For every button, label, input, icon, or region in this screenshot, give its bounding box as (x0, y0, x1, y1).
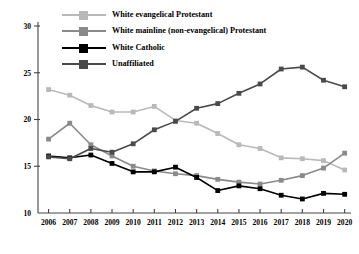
legend-item-white-catholic: White Catholic (62, 41, 312, 54)
x-tick-label: 2020 (337, 218, 352, 227)
chart-legend: White evangelical Protestant White mainl… (62, 8, 312, 74)
series-marker-0 (300, 156, 305, 161)
series-marker-0 (342, 168, 347, 173)
series-marker-2 (110, 161, 115, 166)
series-marker-2 (194, 175, 199, 180)
series-marker-0 (110, 110, 115, 115)
y-tick-label: 30 (23, 22, 31, 31)
series-marker-3 (215, 101, 220, 106)
series-marker-1 (131, 164, 136, 169)
legend-swatch-white-evangelical-protestant (62, 9, 106, 21)
y-tick-label: 25 (23, 69, 31, 78)
series-marker-0 (88, 103, 93, 108)
series-marker-0 (215, 131, 220, 136)
series-marker-1 (173, 171, 178, 176)
x-tick-label: 2019 (316, 218, 331, 227)
legend-label-white-catholic: White Catholic (106, 43, 165, 53)
series-marker-3 (342, 84, 347, 89)
x-tick-label: 2012 (168, 218, 183, 227)
series-marker-0 (67, 93, 72, 98)
y-tick-label: 15 (23, 162, 31, 171)
series-marker-3 (194, 106, 199, 111)
series-marker-1 (258, 182, 263, 187)
series-marker-2 (173, 165, 178, 170)
series-marker-0 (279, 155, 284, 160)
series-marker-3 (321, 78, 326, 83)
x-tick-label: 2013 (189, 218, 204, 227)
y-tick-label: 20 (23, 115, 31, 124)
series-marker-1 (215, 177, 220, 182)
legend-item-white-mainline-protestant: White mainline (non-evangelical) Protest… (62, 25, 312, 38)
series-marker-0 (194, 121, 199, 126)
series-marker-3 (173, 119, 178, 124)
series-marker-2 (237, 183, 242, 188)
legend-swatch-white-catholic (62, 42, 106, 54)
legend-item-unaffiliated: Unaffiliated (62, 58, 312, 71)
legend-label-unaffiliated: Unaffiliated (106, 59, 154, 69)
series-marker-0 (237, 142, 242, 147)
series-marker-2 (152, 169, 157, 174)
series-marker-3 (131, 141, 136, 146)
series-marker-2 (342, 192, 347, 197)
legend-swatch-white-mainline-protestant (62, 25, 106, 37)
series-marker-0 (152, 104, 157, 109)
series-marker-2 (215, 188, 220, 193)
series-marker-0 (258, 146, 263, 151)
series-marker-0 (46, 87, 51, 92)
x-tick-label: 2018 (295, 218, 310, 227)
legend-item-white-evangelical-protestant: White evangelical Protestant (62, 8, 312, 21)
series-marker-3 (258, 82, 263, 87)
y-tick-label: 10 (23, 209, 31, 218)
series-marker-1 (300, 173, 305, 178)
legend-label-white-evangelical-protestant: White evangelical Protestant (106, 10, 212, 20)
series-marker-2 (279, 193, 284, 198)
series-marker-1 (279, 178, 284, 183)
series-marker-1 (67, 121, 72, 126)
series-marker-3 (237, 91, 242, 96)
series-marker-2 (300, 197, 305, 202)
series-marker-1 (342, 151, 347, 156)
series-marker-0 (321, 158, 326, 163)
x-tick-label: 2006 (41, 218, 56, 227)
legend-label-white-mainline-protestant: White mainline (non-evangelical) Protest… (106, 26, 266, 36)
x-tick-label: 2016 (252, 218, 267, 227)
series-marker-3 (152, 127, 157, 132)
series-marker-2 (88, 153, 93, 158)
series-marker-3 (67, 156, 72, 161)
x-tick-label: 2009 (104, 218, 119, 227)
series-marker-1 (321, 166, 326, 171)
x-tick-label: 2008 (83, 218, 98, 227)
line-chart: 1015202530200620072008200920102011201220… (0, 0, 359, 254)
series-marker-1 (46, 137, 51, 142)
x-tick-label: 2017 (274, 218, 289, 227)
x-tick-label: 2011 (147, 218, 162, 227)
series-marker-2 (321, 191, 326, 196)
series-marker-2 (131, 169, 136, 174)
series-marker-3 (46, 155, 51, 160)
series-marker-0 (131, 110, 136, 115)
series-marker-3 (110, 150, 115, 155)
x-tick-label: 2014 (210, 218, 225, 227)
series-marker-2 (258, 186, 263, 191)
x-tick-label: 2015 (231, 218, 246, 227)
legend-swatch-unaffiliated (62, 58, 106, 70)
x-tick-label: 2010 (126, 218, 141, 227)
x-tick-label: 2007 (62, 218, 77, 227)
series-marker-3 (88, 146, 93, 151)
